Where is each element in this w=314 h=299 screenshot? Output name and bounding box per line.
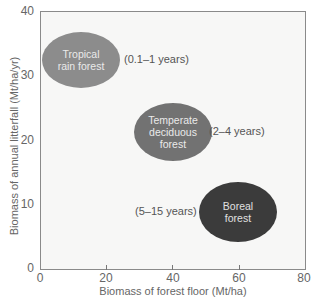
x-tick — [172, 265, 173, 270]
x-tick-label-20: 20 — [91, 271, 121, 285]
plot-area: Tropical rain forest Temperate deciduous… — [40, 11, 306, 270]
x-tick-label-40: 40 — [158, 271, 188, 285]
tropical-turnover-annotation: (0.1–1 years) — [124, 53, 189, 65]
x-tick-label-60: 60 — [224, 271, 254, 285]
tropical-label-line1: Tropical — [58, 48, 105, 60]
x-axis-label: Biomass of forest floor (Mt/ha) — [40, 285, 306, 297]
temperate-label-line2: deciduous — [148, 126, 198, 138]
temperate-deciduous-forest-ellipse: Temperate deciduous forest — [134, 103, 212, 161]
boreal-label-line2: forest — [223, 212, 253, 224]
x-tick-label-80: 80 — [289, 271, 314, 285]
temperate-label-line3: forest — [148, 138, 198, 150]
tropical-label-line2: rain forest — [58, 60, 105, 72]
tropical-rain-forest-ellipse: Tropical rain forest — [42, 32, 120, 88]
x-tick — [106, 265, 107, 270]
temperate-turnover-annotation: (2–4 years) — [209, 125, 265, 137]
boreal-turnover-annotation: (5–15 years) — [135, 205, 197, 217]
y-tick-label-40: 40 — [12, 4, 34, 18]
x-tick — [239, 265, 240, 270]
temperate-label-line1: Temperate — [148, 114, 198, 126]
boreal-label-line1: Boreal — [223, 200, 253, 212]
boreal-forest-ellipse: Boreal forest — [199, 182, 277, 242]
x-tick-label-0: 0 — [25, 271, 55, 285]
y-axis-label: Biomass of annual litterfall (Mt/ha/yr) — [8, 56, 20, 236]
